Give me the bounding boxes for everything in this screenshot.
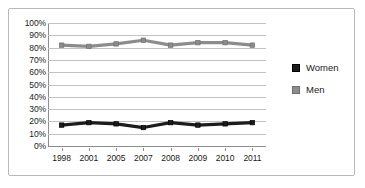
x-tick-mark xyxy=(116,148,117,151)
legend-swatch-icon xyxy=(292,86,300,94)
y-tick-label: 20% xyxy=(12,117,46,126)
y-tick-label: 50% xyxy=(12,81,46,90)
data-point-marker xyxy=(196,40,200,44)
y-tick-label: 60% xyxy=(12,68,46,77)
x-tick-mark xyxy=(171,148,172,151)
chart-frame: 100%90%80%70%60%50%40%30%20%10%0% 199820… xyxy=(8,8,355,176)
legend-label: Men xyxy=(306,85,324,95)
legend-label: Women xyxy=(306,63,339,73)
x-axis-labels: 19982001200520072008200920102011 xyxy=(48,148,266,173)
series-men xyxy=(59,38,254,49)
data-point-marker xyxy=(59,43,63,47)
y-tick-label: 40% xyxy=(12,93,46,102)
x-tick-mark xyxy=(252,148,253,151)
y-tick-label: 70% xyxy=(12,56,46,65)
data-point-marker xyxy=(223,122,227,126)
series-layer xyxy=(48,23,266,146)
y-tick-label: 90% xyxy=(12,31,46,40)
data-point-marker xyxy=(168,120,172,124)
data-point-marker xyxy=(196,123,200,127)
x-tick-mark xyxy=(198,148,199,151)
x-tick-mark xyxy=(143,148,144,151)
data-point-marker xyxy=(114,42,118,46)
data-point-marker xyxy=(250,120,254,124)
y-tick-label: 0% xyxy=(12,142,46,151)
x-tick-mark xyxy=(62,148,63,151)
chart-legend: WomenMen xyxy=(292,59,355,103)
legend-entry-women[interactable]: Women xyxy=(292,59,355,76)
x-tick-label: 2011 xyxy=(236,153,268,163)
series-women xyxy=(59,120,254,129)
data-point-marker xyxy=(114,122,118,126)
data-point-marker xyxy=(141,38,145,42)
gridline xyxy=(48,146,266,147)
data-point-marker xyxy=(87,44,91,48)
legend-entry-men[interactable]: Men xyxy=(292,81,355,98)
plot-area xyxy=(48,23,266,146)
y-tick-label: 10% xyxy=(12,130,46,139)
data-point-marker xyxy=(59,123,63,127)
data-point-marker xyxy=(250,43,254,47)
legend-swatch-icon xyxy=(292,64,300,72)
y-tick-label: 100% xyxy=(12,19,46,28)
y-tick-label: 80% xyxy=(12,44,46,53)
x-tick-mark xyxy=(89,148,90,151)
data-point-marker xyxy=(168,43,172,47)
y-axis-labels: 100%90%80%70%60%50%40%30%20%10%0% xyxy=(9,9,46,176)
data-point-marker xyxy=(141,125,145,129)
data-point-marker xyxy=(87,120,91,124)
y-tick-label: 30% xyxy=(12,105,46,114)
data-point-marker xyxy=(223,40,227,44)
x-tick-mark xyxy=(225,148,226,151)
